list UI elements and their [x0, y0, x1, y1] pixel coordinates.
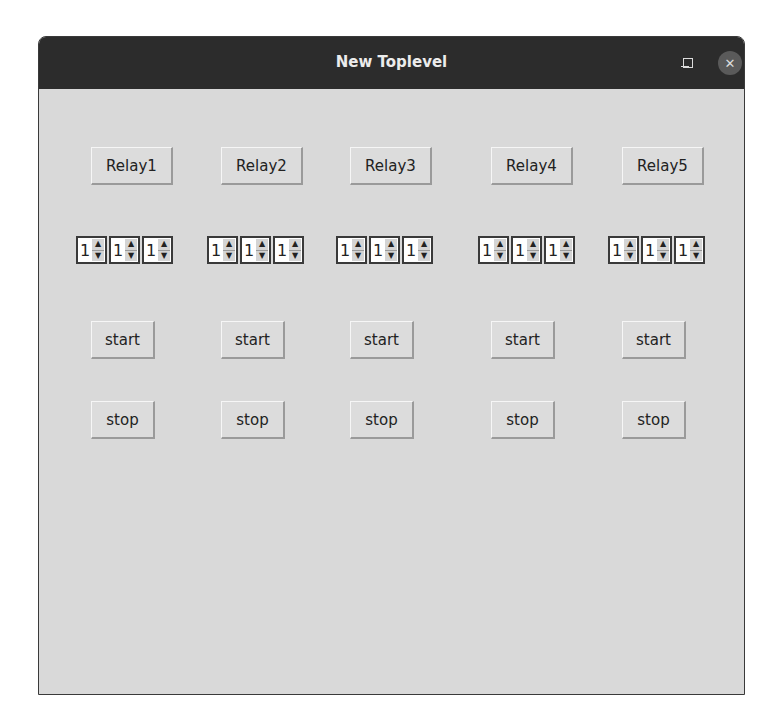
spinbox-value[interactable]: 1: [480, 241, 495, 260]
spin-up-icon[interactable]: ▲: [690, 239, 702, 251]
spinbox-value[interactable]: 1: [610, 241, 625, 260]
spin-down-icon[interactable]: ▼: [560, 251, 572, 262]
relay2-spinbox-3[interactable]: 1▲▼: [273, 236, 304, 264]
relay5-spinbox-2[interactable]: 1▲▼: [641, 236, 672, 264]
spin-up-icon[interactable]: ▲: [624, 239, 636, 251]
relay2-spinbox-group: 1▲▼ 1▲▼ 1▲▼: [207, 236, 304, 264]
spin-up-icon[interactable]: ▲: [289, 239, 301, 251]
relay5-start-button[interactable]: start: [622, 321, 686, 359]
relay2-start-button[interactable]: start: [221, 321, 285, 359]
relay1-start-button[interactable]: start: [91, 321, 155, 359]
spinbox-value[interactable]: 1: [371, 241, 386, 260]
spin-down-icon[interactable]: ▼: [125, 251, 137, 262]
spinbox-value[interactable]: 1: [676, 241, 691, 260]
relay2-spinbox-1[interactable]: 1▲▼: [207, 236, 238, 264]
spin-up-icon[interactable]: ▲: [385, 239, 397, 251]
spinbox-value[interactable]: 1: [546, 241, 561, 260]
relay4-stop-button[interactable]: stop: [491, 401, 555, 439]
relay2-spinbox-2[interactable]: 1▲▼: [240, 236, 271, 264]
spinbox-value[interactable]: 1: [242, 241, 257, 260]
relay4-spinbox-2[interactable]: 1▲▼: [511, 236, 542, 264]
spinbox-value[interactable]: 1: [404, 241, 419, 260]
spinbox-value[interactable]: 1: [643, 241, 658, 260]
spin-up-icon[interactable]: ▲: [158, 239, 170, 251]
relay2-stop-button[interactable]: stop: [221, 401, 285, 439]
toplevel-window: New Toplevel ✕ Relay1 Relay2 Relay3 Rela…: [38, 36, 745, 695]
spinbox-value[interactable]: 1: [111, 241, 126, 260]
spin-down-icon[interactable]: ▼: [289, 251, 301, 262]
relay3-start-button[interactable]: start: [350, 321, 414, 359]
spin-up-icon[interactable]: ▲: [352, 239, 364, 251]
spin-down-icon[interactable]: ▼: [256, 251, 268, 262]
relay3-spinbox-1[interactable]: 1▲▼: [336, 236, 367, 264]
spin-down-icon[interactable]: ▼: [624, 251, 636, 262]
spin-up-icon[interactable]: ▲: [560, 239, 572, 251]
spin-down-icon[interactable]: ▼: [527, 251, 539, 262]
relay1-stop-button[interactable]: stop: [91, 401, 155, 439]
spin-down-icon[interactable]: ▼: [92, 251, 104, 262]
spin-down-icon[interactable]: ▼: [158, 251, 170, 262]
window-title: New Toplevel: [39, 53, 744, 71]
spin-down-icon[interactable]: ▼: [418, 251, 430, 262]
close-button[interactable]: ✕: [718, 51, 742, 75]
spin-up-icon[interactable]: ▲: [256, 239, 268, 251]
relay4-spinbox-group: 1▲▼ 1▲▼ 1▲▼: [478, 236, 575, 264]
spin-up-icon[interactable]: ▲: [418, 239, 430, 251]
spinbox-value[interactable]: 1: [513, 241, 528, 260]
spin-down-icon[interactable]: ▼: [690, 251, 702, 262]
relay3-button[interactable]: Relay3: [350, 147, 432, 185]
relay1-spinbox-1[interactable]: 1▲▼: [76, 236, 107, 264]
relay5-spinbox-1[interactable]: 1▲▼: [608, 236, 639, 264]
relay4-start-button[interactable]: start: [491, 321, 555, 359]
spin-up-icon[interactable]: ▲: [527, 239, 539, 251]
spin-up-icon[interactable]: ▲: [494, 239, 506, 251]
relay3-spinbox-3[interactable]: 1▲▼: [402, 236, 433, 264]
relay1-spinbox-group: 1▲▼ 1▲▼ 1▲▼: [76, 236, 173, 264]
spin-down-icon[interactable]: ▼: [657, 251, 669, 262]
spinbox-value[interactable]: 1: [209, 241, 224, 260]
spinbox-value[interactable]: 1: [78, 241, 93, 260]
relay4-button[interactable]: Relay4: [491, 147, 573, 185]
spin-down-icon[interactable]: ▼: [494, 251, 506, 262]
relay2-button[interactable]: Relay2: [221, 147, 303, 185]
relay3-stop-button[interactable]: stop: [350, 401, 414, 439]
relay1-spinbox-2[interactable]: 1▲▼: [109, 236, 140, 264]
spinbox-value[interactable]: 1: [338, 241, 353, 260]
relay1-spinbox-3[interactable]: 1▲▼: [142, 236, 173, 264]
relay5-button[interactable]: Relay5: [622, 147, 704, 185]
spin-up-icon[interactable]: ▲: [92, 239, 104, 251]
relay3-spinbox-2[interactable]: 1▲▼: [369, 236, 400, 264]
title-bar[interactable]: New Toplevel ✕: [39, 37, 744, 89]
spin-up-icon[interactable]: ▲: [125, 239, 137, 251]
spin-down-icon[interactable]: ▼: [223, 251, 235, 262]
relay3-spinbox-group: 1▲▼ 1▲▼ 1▲▼: [336, 236, 433, 264]
spin-up-icon[interactable]: ▲: [657, 239, 669, 251]
relay5-spinbox-group: 1▲▼ 1▲▼ 1▲▼: [608, 236, 705, 264]
spin-down-icon[interactable]: ▼: [352, 251, 364, 262]
close-icon: ✕: [725, 56, 736, 71]
spinbox-value[interactable]: 1: [275, 241, 290, 260]
maximize-button[interactable]: [676, 51, 700, 75]
relay5-spinbox-3[interactable]: 1▲▼: [674, 236, 705, 264]
spinbox-value[interactable]: 1: [144, 241, 159, 260]
relay1-button[interactable]: Relay1: [91, 147, 173, 185]
relay4-spinbox-3[interactable]: 1▲▼: [544, 236, 575, 264]
spin-up-icon[interactable]: ▲: [223, 239, 235, 251]
relay5-stop-button[interactable]: stop: [622, 401, 686, 439]
relay4-spinbox-1[interactable]: 1▲▼: [478, 236, 509, 264]
spin-down-icon[interactable]: ▼: [385, 251, 397, 262]
window-body: Relay1 Relay2 Relay3 Relay4 Relay5 1▲▼ 1…: [39, 89, 744, 695]
